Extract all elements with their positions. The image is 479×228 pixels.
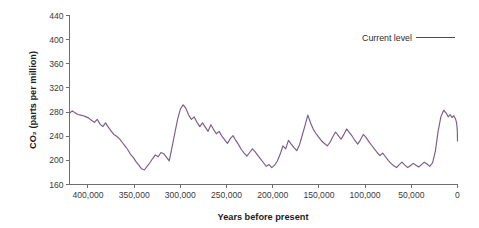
x-tick-label-50000: 50,000	[398, 190, 425, 200]
y-tick-label-200: 200	[49, 155, 64, 165]
y-tick-label-160: 160	[49, 180, 64, 190]
current-level-annotation: Current level	[362, 33, 412, 43]
y-tick-label-400: 400	[49, 35, 64, 45]
x-axis-ticks: 400,000350,000300,000250,000200,000150,0…	[72, 185, 460, 200]
y-axis-label: CO₂ (parts per million)	[28, 51, 38, 149]
y-axis-ticks: 160200240280320360400440	[49, 11, 69, 190]
x-axis-label: Years before present	[218, 212, 309, 222]
x-tick-label-0: 0	[455, 190, 460, 200]
co2-data-line	[70, 105, 458, 170]
x-tick-label-350000: 350,000	[119, 190, 150, 200]
x-tick-label-250000: 250,000	[211, 190, 242, 200]
chart-canvas: 160200240280320360400440 400,000350,0003…	[0, 0, 479, 228]
y-tick-label-320: 320	[49, 83, 64, 93]
y-tick-label-360: 360	[49, 59, 64, 69]
y-tick-label-280: 280	[49, 107, 64, 117]
x-tick-label-150000: 150,000	[303, 190, 334, 200]
x-tick-label-100000: 100,000	[350, 190, 381, 200]
x-tick-label-400000: 400,000	[72, 190, 103, 200]
x-tick-label-200000: 200,000	[257, 190, 288, 200]
co2-chart-figure: 160200240280320360400440 400,000350,0003…	[0, 0, 479, 228]
y-tick-label-440: 440	[49, 11, 64, 21]
y-tick-label-240: 240	[49, 131, 64, 141]
x-tick-label-300000: 300,000	[165, 190, 196, 200]
